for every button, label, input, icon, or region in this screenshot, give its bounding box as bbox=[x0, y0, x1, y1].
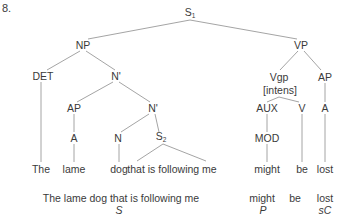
leaf-clause: that is following me bbox=[127, 163, 216, 175]
node-np: NP bbox=[76, 39, 91, 51]
example-number: 8. bbox=[2, 2, 11, 14]
leaf-lost: lost bbox=[317, 163, 333, 175]
node-s1-subscript: 1 bbox=[192, 12, 196, 19]
predicator-text-be: be bbox=[289, 192, 301, 204]
node-nbar-inner: N' bbox=[148, 102, 158, 114]
complement-text: lost bbox=[317, 192, 333, 204]
complement-label: sC bbox=[319, 204, 332, 216]
leaf-lame: lame bbox=[63, 163, 86, 175]
node-vgp: Vgp bbox=[270, 71, 289, 83]
node-s1: S1 bbox=[185, 6, 196, 22]
node-s1-label: S bbox=[185, 6, 192, 18]
node-a-left: A bbox=[70, 132, 77, 144]
node-s2-label: S bbox=[156, 130, 163, 142]
node-nbar-outer: N' bbox=[111, 70, 121, 82]
predicator-label: P bbox=[259, 204, 266, 216]
node-a-right: A bbox=[321, 102, 328, 114]
predicator-text-might: might bbox=[249, 192, 275, 204]
tree-branches bbox=[0, 0, 339, 219]
node-vgp-feature: [intens] bbox=[263, 84, 297, 96]
leaf-might: might bbox=[254, 163, 280, 175]
node-det: DET bbox=[33, 70, 54, 82]
node-mod: MOD bbox=[255, 132, 280, 144]
node-ap-left: AP bbox=[67, 102, 81, 114]
subject-label: S bbox=[115, 204, 122, 216]
node-aux: AUX bbox=[256, 102, 278, 114]
node-vp: VP bbox=[294, 39, 308, 51]
node-n: N bbox=[114, 132, 122, 144]
node-s2: S2 bbox=[156, 130, 167, 146]
node-ap-right: AP bbox=[318, 71, 332, 83]
leaf-the: The bbox=[32, 163, 50, 175]
leaf-dog: dog bbox=[110, 163, 128, 175]
leaf-be: be bbox=[296, 163, 308, 175]
node-v: V bbox=[298, 102, 305, 114]
node-s2-subscript: 2 bbox=[163, 136, 167, 143]
subject-text: The lame dog that is following me bbox=[43, 192, 199, 204]
syntax-tree-diagram: 8. S1 NP VP DET N' AP N' A N S2 Vgp [int… bbox=[0, 0, 339, 219]
